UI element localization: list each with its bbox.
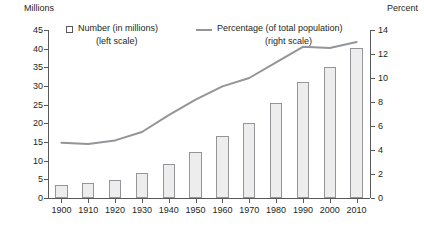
right-tick-mark — [371, 126, 375, 127]
x-tick-mark — [61, 199, 62, 203]
x-tick-mark — [276, 199, 277, 203]
bar — [350, 48, 362, 198]
x-axis-line — [48, 198, 370, 199]
chart-container: Millions Percent Number (in millions) (l… — [0, 0, 424, 232]
bar — [270, 103, 282, 198]
x-tick-mark — [330, 199, 331, 203]
x-axis-label: 1960 — [212, 205, 232, 215]
right-tick-mark — [371, 30, 375, 31]
left-tick-label: 40 — [18, 44, 43, 54]
bar — [136, 173, 148, 198]
x-axis-label: 1900 — [51, 205, 71, 215]
right-tick-label: 4 — [378, 145, 383, 155]
bar — [55, 185, 67, 198]
right-tick-mark — [371, 174, 375, 175]
right-tick-mark — [371, 54, 375, 55]
x-axis-label: 1980 — [266, 205, 286, 215]
x-axis-label: 1920 — [105, 205, 125, 215]
line-series — [48, 30, 370, 198]
x-axis-label: 1930 — [132, 205, 152, 215]
chart-legend: Number (in millions) (left scale) Percen… — [0, 0, 424, 30]
x-axis-label: 2000 — [320, 205, 340, 215]
right-tick-label: 12 — [378, 49, 388, 59]
right-tick-label: 8 — [378, 97, 383, 107]
x-tick-mark — [196, 199, 197, 203]
x-tick-mark — [115, 199, 116, 203]
left-tick-label: 15 — [18, 137, 43, 147]
bar — [216, 136, 228, 198]
right-tick-mark — [371, 78, 375, 79]
right-axis-line — [370, 30, 371, 198]
bar — [297, 82, 309, 198]
right-tick-label: 10 — [378, 73, 388, 83]
x-axis-label: 1950 — [186, 205, 206, 215]
bar — [82, 183, 94, 198]
right-tick-label: 14 — [378, 25, 388, 35]
bar — [243, 123, 255, 198]
left-tick-label: 10 — [18, 156, 43, 166]
bar — [189, 152, 201, 198]
x-axis-label: 1970 — [239, 205, 259, 215]
bar — [109, 180, 121, 198]
left-tick-label: 0 — [18, 193, 43, 203]
x-tick-mark — [88, 199, 89, 203]
right-tick-mark — [371, 150, 375, 151]
bar — [163, 164, 175, 198]
x-axis-label: 1940 — [159, 205, 179, 215]
x-tick-mark — [357, 199, 358, 203]
x-axis-label: 2010 — [347, 205, 367, 215]
right-tick-label: 6 — [378, 121, 383, 131]
left-tick-label: 20 — [18, 118, 43, 128]
bar — [324, 67, 336, 198]
right-tick-mark — [371, 198, 375, 199]
x-axis-label: 1910 — [78, 205, 98, 215]
x-axis-label: 1990 — [293, 205, 313, 215]
left-tick-label: 25 — [18, 100, 43, 110]
x-tick-mark — [142, 199, 143, 203]
right-tick-label: 0 — [378, 193, 383, 203]
x-tick-mark — [169, 199, 170, 203]
x-tick-mark — [222, 199, 223, 203]
x-tick-mark — [303, 199, 304, 203]
left-tick-label: 45 — [18, 25, 43, 35]
left-tick-label: 5 — [18, 174, 43, 184]
right-tick-label: 2 — [378, 169, 383, 179]
right-tick-mark — [371, 102, 375, 103]
plot-area — [48, 30, 370, 198]
left-tick-label: 30 — [18, 81, 43, 91]
x-tick-mark — [249, 199, 250, 203]
percentage-line — [61, 42, 356, 144]
left-tick-label: 35 — [18, 62, 43, 72]
